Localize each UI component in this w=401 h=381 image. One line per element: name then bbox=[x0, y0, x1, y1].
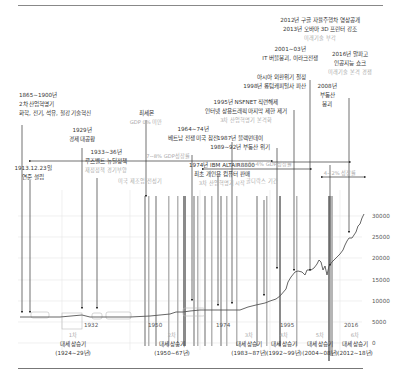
svg-text:1932: 1932 bbox=[84, 322, 98, 328]
chart: 30000 25000 20000 15000 10000 5000 0 193… bbox=[0, 0, 401, 381]
svg-text:최초 개인용 컴퓨터 판매: 최초 개인용 컴퓨터 판매 bbox=[194, 170, 249, 178]
annotation-1929: 1929년 경제 대공황 bbox=[69, 126, 96, 143]
svg-text:(2004~08년): (2004~08년) bbox=[302, 349, 337, 356]
svg-text:2차: 2차 bbox=[168, 331, 176, 339]
svg-text:25000: 25000 bbox=[372, 234, 390, 240]
svg-text:1929년: 1929년 bbox=[72, 126, 91, 133]
svg-text:2013년 오바마 3D 프린터 강조: 2013년 오바마 3D 프린터 강조 bbox=[283, 25, 357, 33]
svg-text:재정정책 경기부양: 재정정책 경기부양 bbox=[85, 166, 127, 174]
svg-text:1865~1900년: 1865~1900년 bbox=[19, 91, 57, 98]
svg-text:아시아 외환위기 절정: 아시아 외환위기 절정 bbox=[257, 73, 306, 81]
svg-text:(1924~29년): (1924~29년) bbox=[55, 349, 90, 356]
svg-text:1933~36년: 1933~36년 bbox=[90, 148, 121, 155]
svg-text:1998년 롱텀캐피털사 파산: 1998년 롱텀캐피털사 파산 bbox=[243, 82, 306, 90]
annotation-2016: 2016년 알파고 인공지능 쇼크 미래기술 본격 경쟁 bbox=[328, 50, 371, 76]
svg-text:3~4% GDP성장률: 3~4% GDP성장률 bbox=[248, 160, 292, 167]
svg-text:10000: 10000 bbox=[372, 298, 390, 304]
svg-text:1차: 1차 bbox=[69, 331, 77, 339]
annotation-1995: 1995년 NSFNET 직련해제 인터넷 상용트래픽 마지막 제한 제거 3차… bbox=[205, 98, 287, 124]
svg-text:6차: 6차 bbox=[351, 331, 359, 339]
annotation-vietnam: 1964~74년 베트남 전쟁 미국 참전 bbox=[168, 125, 218, 142]
svg-text:2016: 2016 bbox=[344, 322, 359, 328]
svg-text:대세 상승기: 대세 상승기 bbox=[307, 340, 334, 348]
svg-text:부동산: 부동산 bbox=[320, 91, 335, 99]
svg-text:2012년 구글 자율주행차 영상공개: 2012년 구글 자율주행차 영상공개 bbox=[280, 16, 360, 24]
annotation-1913: 1913.12.23일 연준 설립 bbox=[14, 164, 51, 180]
svg-text:IT 버블붕괴, 이라크전쟁: IT 버블붕괴, 이라크전쟁 bbox=[262, 54, 317, 62]
svg-text:30000: 30000 bbox=[372, 213, 390, 219]
svg-text:7~8% GDP성장률: 7~8% GDP성장률 bbox=[146, 152, 190, 159]
annotation-1865: 1865~1900년 2차 산업혁명기 화학, 전기, 석유, 철강 기술혁신 bbox=[19, 91, 91, 117]
annotation-2001: 2001~03년 IT 버블붕괴, 이라크전쟁 bbox=[262, 45, 317, 62]
svg-text:GDP 0% 미만: GDP 0% 미만 bbox=[130, 118, 163, 126]
svg-text:2001~03년: 2001~03년 bbox=[274, 45, 305, 52]
svg-text:미래기술 부각: 미래기술 부각 bbox=[304, 34, 336, 42]
svg-text:1964~74년: 1964~74년 bbox=[177, 125, 208, 132]
svg-text:5000: 5000 bbox=[372, 319, 387, 325]
svg-text:1995년 NSFNET 직련해제: 1995년 NSFNET 직련해제 bbox=[214, 98, 279, 106]
svg-text:1987년 블랙먼데이: 1987년 블랙먼데이 bbox=[217, 134, 263, 142]
svg-text:인터넷 상용트래픽 마지막 제한 제거: 인터넷 상용트래픽 마지막 제한 제거 bbox=[205, 107, 287, 115]
svg-text:4차: 4차 bbox=[280, 331, 288, 339]
svg-text:1989~92년 부동산 위기: 1989~92년 부동산 위기 bbox=[210, 143, 270, 151]
svg-text:미국 제조업 전성기: 미국 제조업 전성기 bbox=[118, 177, 161, 185]
svg-text:5차: 5차 bbox=[316, 331, 324, 339]
annotation-2012: 2012년 구글 자율주행차 영상공개 2013년 오바마 3D 프린터 강조 … bbox=[280, 16, 360, 42]
svg-text:15000: 15000 bbox=[372, 277, 390, 283]
svg-text:2차 산업혁명기: 2차 산업혁명기 bbox=[19, 100, 54, 108]
svg-text:20000: 20000 bbox=[372, 255, 390, 261]
svg-text:대세 상승기: 대세 상승기 bbox=[236, 340, 263, 348]
svg-text:2016년 알파고: 2016년 알파고 bbox=[332, 50, 368, 58]
svg-text:연준 설립: 연준 설립 bbox=[22, 173, 44, 180]
svg-text:2008년: 2008년 bbox=[317, 82, 336, 89]
svg-text:인공지능 쇼크: 인공지능 쇼크 bbox=[334, 59, 366, 67]
svg-text:최세몬: 최세몬 bbox=[139, 109, 154, 117]
svg-text:대세 상승기: 대세 상승기 bbox=[159, 340, 186, 348]
svg-text:루즈벨트 뉴딜정책: 루즈벨트 뉴딜정책 bbox=[85, 157, 127, 165]
svg-text:1974년 IBM ALTAIR8800: 1974년 IBM ALTAIR8800 bbox=[189, 161, 255, 168]
annotation-wwii: 최세몬 GDP 0% 미만 bbox=[130, 109, 163, 126]
x-axis-labels: 1932 1950 1974 1995 2016 bbox=[84, 322, 359, 328]
svg-text:3차: 3차 bbox=[245, 331, 253, 339]
svg-text:(1992~99년): (1992~99년) bbox=[266, 349, 301, 356]
svg-text:1913.12.23일: 1913.12.23일 bbox=[14, 164, 51, 171]
svg-text:(1983~87년): (1983~87년) bbox=[231, 349, 266, 356]
annotation-asia: 아시아 외환위기 절정 1998년 롱텀캐피털사 파산 bbox=[243, 73, 306, 90]
svg-text:골디락스 기간: 골디락스 기간 bbox=[246, 177, 278, 185]
annotation-1933: 1933~36년 루즈벨트 뉴딜정책 재정정책 경기부양 bbox=[85, 148, 127, 174]
svg-text:0: 0 bbox=[372, 340, 376, 346]
phase-labels: 1차 대세 상승기 (1924~29년) 2차 대세 상승기 (1950~67년… bbox=[55, 331, 372, 356]
svg-text:1950: 1950 bbox=[148, 322, 163, 328]
annotation-2008: 2008년 부동산 붕괴 bbox=[317, 82, 336, 108]
svg-text:화학, 전기, 석유, 철강 기술혁신: 화학, 전기, 석유, 철강 기술혁신 bbox=[19, 109, 91, 117]
y-axis-labels: 30000 25000 20000 15000 10000 5000 0 bbox=[372, 213, 390, 346]
svg-text:(2012~18년): (2012~18년) bbox=[337, 349, 372, 356]
svg-text:1974: 1974 bbox=[216, 322, 231, 328]
svg-text:대세 상승기: 대세 상승기 bbox=[271, 340, 298, 348]
svg-text:3차 산업혁명기 시작: 3차 산업혁명기 시작 bbox=[199, 179, 246, 187]
svg-text:대세 상승기: 대세 상승기 bbox=[342, 340, 369, 348]
svg-text:경제 대공황: 경제 대공황 bbox=[69, 135, 96, 143]
svg-text:1995: 1995 bbox=[280, 322, 295, 328]
svg-text:붕괴: 붕괴 bbox=[322, 100, 332, 108]
svg-text:베트남 전쟁 미국 참전: 베트남 전쟁 미국 참전 bbox=[168, 134, 218, 142]
annotation-1987: 1987년 블랙먼데이 1989~92년 부동산 위기 bbox=[210, 134, 270, 151]
svg-text:4~2% 성장률: 4~2% 성장률 bbox=[324, 169, 357, 176]
svg-text:3차 산업혁명기 본격화: 3차 산업혁명기 본격화 bbox=[220, 116, 272, 124]
svg-text:대세 상승기: 대세 상승기 bbox=[60, 340, 87, 348]
svg-text:(1950~67년): (1950~67년) bbox=[154, 349, 189, 356]
svg-text:미래기술 본격 경쟁: 미래기술 본격 경쟁 bbox=[328, 68, 371, 76]
